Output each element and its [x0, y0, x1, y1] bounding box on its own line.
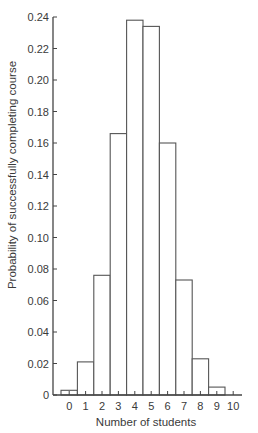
x-tick-label: 5 — [148, 400, 154, 412]
y-tick-label: 0.14 — [28, 169, 49, 181]
y-tick-label: 0 — [43, 389, 49, 401]
bar-3 — [110, 134, 126, 395]
x-tick-label: 4 — [132, 400, 138, 412]
y-tick-label: 0.24 — [28, 11, 49, 23]
y-tick-label: 0.18 — [28, 106, 49, 118]
x-tick-label: 1 — [83, 400, 89, 412]
bar-5 — [143, 26, 159, 395]
y-axis-label: Probability of successfully completing c… — [6, 61, 18, 289]
y-tick-label: 0.10 — [28, 232, 49, 244]
x-tick-label: 6 — [165, 400, 171, 412]
x-tick-label: 9 — [214, 400, 220, 412]
y-tick-label: 0.04 — [28, 326, 49, 338]
x-tick-label: 10 — [227, 400, 239, 412]
bar-8 — [192, 359, 208, 395]
bar-2 — [94, 275, 110, 395]
x-tick-label: 2 — [99, 400, 105, 412]
y-tick-label: 0.22 — [28, 43, 49, 55]
bar-4 — [127, 20, 143, 395]
x-tick-label: 7 — [181, 400, 187, 412]
y-tick-label: 0.20 — [28, 74, 49, 86]
y-tick-label: 0.08 — [28, 263, 49, 275]
y-tick-label: 0.06 — [28, 295, 49, 307]
x-tick-label: 0 — [66, 400, 72, 412]
y-tick-label: 0.16 — [28, 137, 49, 149]
x-tick-label: 3 — [115, 400, 121, 412]
y-tick-label: 0.02 — [28, 358, 49, 370]
histogram-chart: 00.020.040.060.080.100.120.140.160.180.2… — [0, 0, 258, 433]
chart-plot-area: 00.020.040.060.080.100.120.140.160.180.2… — [0, 0, 258, 433]
bar-1 — [77, 362, 93, 395]
x-tick-label: 8 — [197, 400, 203, 412]
x-axis-label: Number of students — [96, 416, 196, 428]
bar-6 — [159, 143, 175, 395]
bar-7 — [176, 280, 192, 395]
y-tick-label: 0.12 — [28, 200, 49, 212]
